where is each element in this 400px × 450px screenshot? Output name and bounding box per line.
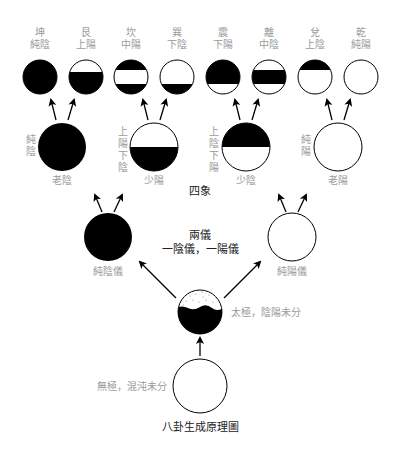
trigram-name: 兌 (310, 27, 320, 38)
trigram-kan-circle (113, 60, 149, 94)
four-symbols (38, 121, 362, 173)
diagram-title: 八卦生成原理圖 (162, 420, 239, 434)
old-yin-circle (38, 123, 86, 171)
trigram-name: 乾 (356, 26, 366, 38)
wuji-circle (173, 359, 227, 413)
trigram-gen-circle (68, 60, 104, 96)
two-forms-heading: 兩儀 (189, 228, 211, 242)
yin-form-label: 純陰儀 (93, 265, 123, 277)
trigram-labels: 坤 純陰 艮 上陽 坎 中陽 巽 下陰 震 下陽 離 中陰 兌 上陰 乾 純陽 (30, 26, 371, 50)
trigram-xun-circle (159, 60, 195, 96)
old-yang-circle (314, 123, 362, 171)
trigram-desc: 中陽 (121, 38, 141, 50)
side-label-char: 下 (118, 150, 128, 161)
trigram-dui-circle (297, 58, 333, 94)
side-label-char: 陽 (301, 146, 311, 157)
two-forms: 純陰儀 純陽儀 兩儀 一陰儀，一陽儀 (84, 213, 316, 277)
trigram-desc: 純陰 (30, 38, 50, 50)
side-label-char: 下 (209, 150, 219, 161)
trigram-qian-circle (344, 60, 378, 94)
side-label-char: 陰 (26, 145, 36, 157)
trigram-li-circle (251, 60, 287, 94)
old-yang-label: 老陽 (328, 174, 348, 186)
side-label-char: 上 (209, 126, 219, 137)
side-label-char: 陰 (209, 137, 219, 149)
trigram-desc: 下陰 (167, 38, 187, 50)
young-yin-label: 少陰 (236, 174, 256, 186)
side-label-char: 陽 (118, 138, 128, 149)
yang-form-label: 純陽儀 (277, 265, 307, 277)
trigram-name: 艮 (81, 27, 91, 38)
trigram-name: 坎 (126, 26, 136, 38)
wuji-label: 無極，混沌未分 (97, 380, 167, 392)
side-label-char: 純 (26, 133, 36, 145)
young-yin-circle (220, 121, 272, 171)
side-label-char: 純 (301, 133, 311, 145)
side-label-char: 上 (118, 126, 128, 137)
trigram-desc: 中陰 (259, 38, 279, 50)
trigram-name: 震 (218, 27, 228, 38)
taiji-circle (176, 290, 226, 336)
trigram-desc: 下陽 (213, 39, 233, 50)
trigram-desc: 上陰 (305, 38, 325, 50)
trigram-desc: 上陽 (76, 39, 96, 50)
trigram-kun-circle (23, 60, 57, 94)
trigram-desc: 純陽 (351, 38, 371, 50)
yang-form-circle (268, 213, 316, 261)
taiji-label: 太極，陰陽未分 (231, 306, 301, 318)
side-label-char: 陰 (118, 161, 128, 173)
young-yang-label: 少陽 (144, 175, 164, 186)
young-yang-circle (128, 123, 180, 173)
side-label-char: 陽 (209, 162, 219, 173)
trigram-name: 巽 (172, 27, 182, 38)
yin-form-circle (84, 213, 132, 261)
trigram-name: 坤 (35, 26, 45, 38)
trigram-circles (23, 58, 378, 96)
four-symbols-heading: 四象 (189, 185, 211, 198)
two-forms-subheading: 一陰儀，一陽儀 (162, 242, 239, 256)
bagua-diagram: 坤 純陰 艮 上陽 坎 中陽 巽 下陰 震 下陽 離 中陰 兌 上陰 乾 純陽 (0, 0, 400, 450)
trigram-zhen-circle (205, 58, 241, 94)
arrows-to-trigrams (51, 100, 350, 120)
trigram-name: 離 (264, 26, 274, 38)
old-yin-label: 老陰 (52, 174, 72, 186)
